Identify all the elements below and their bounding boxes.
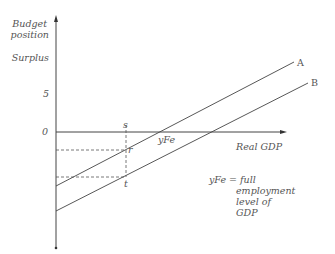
y-axis-label-line2: position <box>11 29 49 40</box>
budget-diagram: Budget position Surplus 5 0 Real GDP A B… <box>0 0 335 254</box>
tick-5: 5 <box>43 88 49 99</box>
line-b-label: B <box>311 77 318 88</box>
tick-0: 0 <box>42 126 48 137</box>
line-a-label: A <box>296 57 304 68</box>
x-axis-arrow-icon <box>280 130 287 134</box>
point-t-label: t <box>124 178 128 189</box>
note-line4: GDP <box>236 207 258 218</box>
note-line1: yFe = full <box>208 174 256 185</box>
note-line2: employment <box>236 185 296 196</box>
line-a <box>56 62 294 186</box>
point-s-label: s <box>123 119 128 130</box>
surplus-label: Surplus <box>12 52 49 63</box>
y-axis-bottom-dot <box>55 247 58 250</box>
x-axis-label: Real GDP <box>235 141 283 152</box>
yfe-label: yFe <box>157 134 175 145</box>
note-line3: level of <box>236 196 272 207</box>
y-axis-arrow-icon <box>54 15 58 22</box>
y-axis-label-line1: Budget <box>11 18 47 29</box>
